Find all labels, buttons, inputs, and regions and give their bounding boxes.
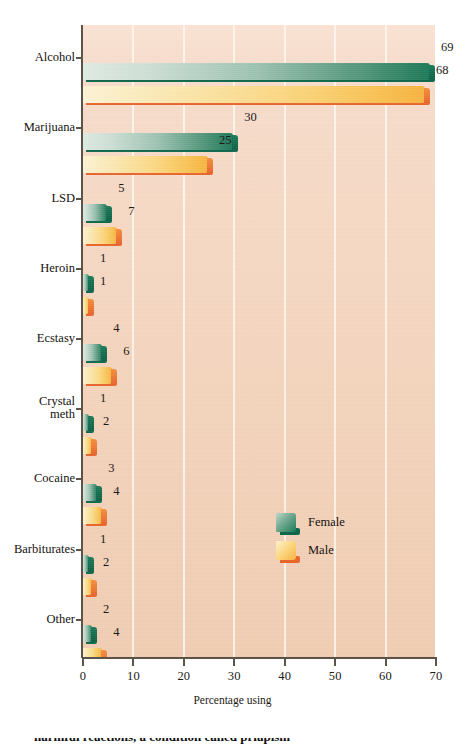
x-tick-label-30: 30 bbox=[214, 669, 254, 684]
category-label-0: Alcohol bbox=[0, 51, 75, 64]
bar-male-6 bbox=[82, 507, 107, 524]
category-tick-7 bbox=[76, 549, 82, 551]
bar-face bbox=[82, 367, 112, 384]
x-tick-label-70: 70 bbox=[416, 669, 456, 684]
bar-face bbox=[82, 133, 233, 150]
bar-face bbox=[82, 227, 117, 244]
bar-male-1 bbox=[82, 156, 213, 173]
bar-cap bbox=[106, 206, 112, 221]
bar-value-male-7: 2 bbox=[103, 554, 109, 571]
category-label-4: Ecstasy bbox=[0, 332, 75, 345]
category-label-1: Marijuana bbox=[0, 121, 75, 134]
bar-cap bbox=[96, 486, 102, 501]
bar-value-female-4: 4 bbox=[113, 320, 119, 337]
legend-item-female: Female bbox=[276, 513, 396, 541]
bar-face bbox=[82, 204, 107, 221]
bar-cap bbox=[88, 299, 94, 314]
bar-female-7 bbox=[82, 555, 94, 572]
bar-value-male-5: 2 bbox=[103, 413, 109, 430]
x-tick-mark-20 bbox=[183, 659, 185, 666]
bar-value-male-4: 6 bbox=[123, 343, 129, 360]
bar-male-2 bbox=[82, 227, 122, 244]
bar-cap bbox=[429, 65, 435, 80]
bar-cap bbox=[207, 158, 213, 173]
bar-face bbox=[82, 507, 102, 524]
bar-value-female-3: 1 bbox=[100, 250, 106, 267]
x-axis-title: Percentage using bbox=[0, 694, 465, 706]
bar-value-female-5: 1 bbox=[100, 390, 106, 407]
bar-cap bbox=[111, 369, 117, 384]
bar-female-2 bbox=[82, 204, 112, 221]
category-label-2: LSD bbox=[0, 192, 75, 205]
bar-value-female-2: 5 bbox=[118, 180, 124, 197]
gridline-30 bbox=[233, 25, 235, 658]
bar-male-5 bbox=[82, 437, 97, 454]
legend-label-male: Male bbox=[308, 543, 334, 558]
bar-male-0 bbox=[82, 86, 430, 103]
x-tick-label-10: 10 bbox=[113, 669, 153, 684]
bar-value-female-6: 3 bbox=[108, 460, 114, 477]
legend-swatch-male-icon bbox=[276, 541, 300, 563]
category-tick-2 bbox=[76, 198, 82, 200]
bar-cap bbox=[116, 229, 122, 244]
x-tick-label-0: 0 bbox=[63, 669, 103, 684]
bar-female-8 bbox=[82, 625, 97, 642]
category-label-8: Other bbox=[0, 613, 75, 626]
x-tick-mark-30 bbox=[233, 659, 235, 666]
bar-cap bbox=[88, 416, 94, 431]
bar-value-female-0: 69 bbox=[441, 39, 454, 56]
gridline-20 bbox=[183, 25, 185, 658]
x-tick-mark-70 bbox=[435, 659, 437, 666]
bar-cap bbox=[91, 580, 97, 595]
gridline-10 bbox=[132, 25, 134, 658]
bar-value-female-1: 30 bbox=[244, 109, 257, 126]
bar-chart-figure: Percentage using Female Male harmful rea… bbox=[0, 0, 465, 745]
bar-cap bbox=[101, 346, 107, 361]
bar-female-3 bbox=[82, 274, 94, 291]
category-tick-0 bbox=[76, 57, 82, 59]
category-tick-6 bbox=[76, 478, 82, 480]
legend-item-male: Male bbox=[276, 541, 396, 569]
bar-cap bbox=[101, 509, 107, 524]
bar-female-1 bbox=[82, 133, 238, 150]
category-tick-5 bbox=[76, 408, 82, 410]
bar-face bbox=[82, 344, 102, 361]
bar-cap bbox=[424, 88, 430, 103]
bar-value-female-8: 2 bbox=[103, 601, 109, 618]
legend-label-female: Female bbox=[308, 515, 345, 530]
bar-face bbox=[82, 63, 430, 80]
x-tick-mark-40 bbox=[284, 659, 286, 666]
category-tick-8 bbox=[76, 619, 82, 621]
y-axis-line bbox=[81, 25, 83, 658]
bar-value-male-6: 4 bbox=[113, 483, 119, 500]
x-tick-mark-60 bbox=[385, 659, 387, 666]
x-tick-label-50: 50 bbox=[315, 669, 355, 684]
bar-male-3 bbox=[82, 297, 94, 314]
bar-value-male-0: 68 bbox=[436, 62, 449, 79]
bar-female-0 bbox=[82, 63, 435, 80]
bar-cap bbox=[88, 557, 94, 572]
x-tick-label-60: 60 bbox=[366, 669, 406, 684]
bar-cap bbox=[91, 627, 97, 642]
bar-male-7 bbox=[82, 578, 97, 595]
category-label-3: Heroin bbox=[0, 262, 75, 275]
bar-cap bbox=[232, 135, 238, 150]
category-tick-1 bbox=[76, 127, 82, 129]
bar-value-male-8: 4 bbox=[113, 624, 119, 641]
bar-value-male-2: 7 bbox=[128, 203, 134, 220]
x-tick-label-40: 40 bbox=[265, 669, 305, 684]
bar-value-female-7: 1 bbox=[100, 531, 106, 548]
bar-female-4 bbox=[82, 344, 107, 361]
page-body-text-fragment: harmful reactions, a condition called pr… bbox=[34, 729, 434, 745]
category-label-5: Crystal meth bbox=[0, 395, 75, 421]
bar-cap bbox=[91, 439, 97, 454]
category-label-7: Barbiturates bbox=[0, 543, 75, 556]
bar-face bbox=[82, 484, 97, 501]
legend-swatch-female-icon bbox=[276, 513, 300, 535]
bar-female-5 bbox=[82, 414, 94, 431]
bar-female-6 bbox=[82, 484, 102, 501]
bar-face bbox=[82, 86, 425, 103]
bar-face bbox=[82, 156, 208, 173]
chart-legend: Female Male bbox=[276, 513, 396, 569]
x-tick-label-20: 20 bbox=[164, 669, 204, 684]
